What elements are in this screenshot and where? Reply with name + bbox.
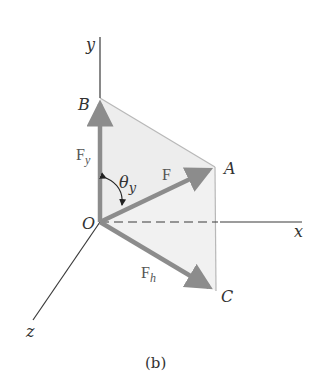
point-O-label: O (82, 214, 95, 233)
y-axis-label: y (85, 35, 96, 54)
point-C-label: C (221, 287, 233, 306)
vector-F-label: F (162, 166, 171, 183)
z-axis-label: z (25, 322, 35, 341)
force-component-diagram: y x z B A C O F Fy Fh θy (b) (0, 0, 326, 386)
figure-caption: (b) (145, 354, 166, 372)
point-B-label: B (77, 95, 90, 114)
point-A-label: A (222, 159, 236, 178)
vector-Fh-label: Fh (141, 264, 156, 285)
z-axis (33, 222, 100, 320)
vector-Fy-label: Fy (76, 146, 91, 167)
x-axis-label: x (294, 222, 303, 241)
